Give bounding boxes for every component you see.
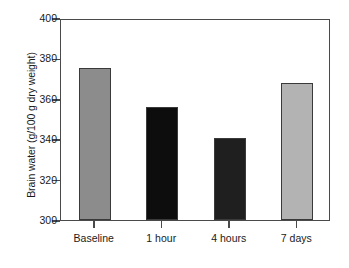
x-axis-tick bbox=[228, 221, 230, 228]
plot-area bbox=[60, 19, 330, 221]
y-axis-tick-label: 400 bbox=[17, 13, 57, 24]
y-axis-tick-label: 360 bbox=[17, 94, 57, 105]
bar-4-hours bbox=[214, 138, 246, 220]
y-axis-title: Brain water (g/100 g dry weight) bbox=[22, 10, 40, 240]
bar-1-hour bbox=[146, 107, 178, 220]
bar-chart-figure: Brain water (g/100 g dry weight) 3003203… bbox=[0, 0, 349, 268]
y-axis-tick-label: 300 bbox=[17, 215, 57, 226]
x-axis-tick bbox=[161, 221, 163, 228]
y-axis-tick-label: 340 bbox=[17, 134, 57, 145]
x-axis-tick bbox=[296, 221, 298, 228]
y-axis-tick-label: 320 bbox=[17, 175, 57, 186]
x-axis-tick bbox=[93, 221, 95, 228]
bar-baseline bbox=[79, 68, 111, 221]
bar-7-days bbox=[281, 83, 313, 220]
y-axis-tick-label: 380 bbox=[17, 53, 57, 64]
x-axis-category-label: 7 days bbox=[256, 232, 336, 245]
